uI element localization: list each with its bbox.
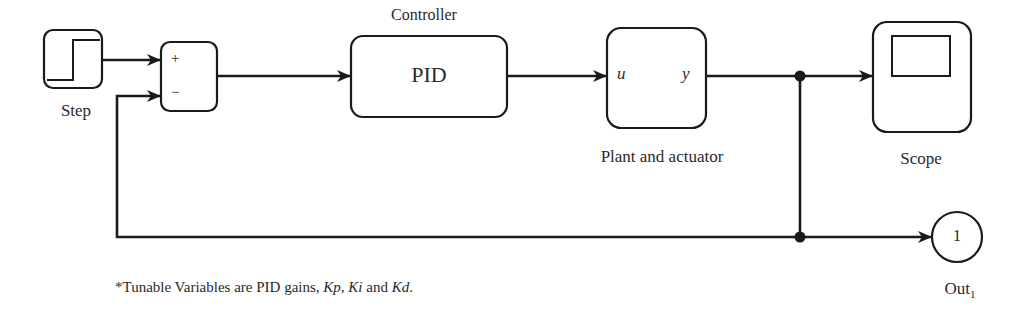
- outport-label-subscript: 1: [970, 288, 976, 300]
- step-block[interactable]: [44, 30, 102, 88]
- plant-output-port-y: y: [682, 64, 690, 84]
- controller-title: Controller: [391, 6, 457, 24]
- junction-dot-bottom: [795, 232, 806, 243]
- footnote: *Tunable Variables are PID gains, Kp, Ki…: [115, 279, 413, 296]
- scope-block[interactable]: [873, 22, 971, 132]
- outport-number: 1: [953, 227, 961, 245]
- sum-minus-sign: −: [171, 84, 179, 101]
- junction-dot-top: [795, 71, 806, 82]
- footnote-ki: Ki: [348, 279, 362, 295]
- footnote-and: and: [363, 279, 392, 295]
- outport-label-text: Out: [945, 279, 971, 298]
- outport-label: Out1: [945, 279, 976, 300]
- block-diagram-canvas: [0, 0, 1024, 317]
- sum-plus-sign: +: [171, 50, 179, 67]
- plant-label: Plant and actuator: [601, 147, 724, 167]
- scope-screen-icon: [892, 36, 950, 76]
- step-label: Step: [61, 101, 91, 121]
- scope-label: Scope: [900, 149, 942, 169]
- footnote-kp: Kp: [323, 279, 341, 295]
- footnote-kd: Kd: [392, 279, 410, 295]
- footnote-end: .: [409, 279, 413, 295]
- pid-label: PID: [411, 62, 446, 88]
- sum-block[interactable]: [161, 42, 217, 111]
- footnote-prefix: *Tunable Variables are PID gains,: [115, 279, 323, 295]
- plant-input-port-u: u: [617, 64, 626, 84]
